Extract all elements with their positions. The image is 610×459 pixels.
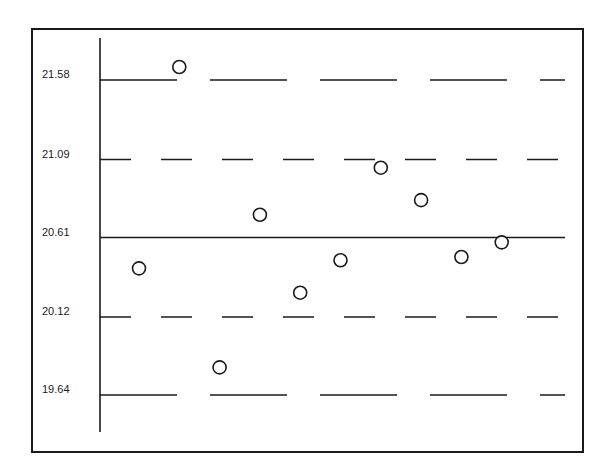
reference-lines [100,80,565,395]
data-points [133,61,509,374]
data-point [133,262,146,275]
y-tick-label: 19.64 [42,383,70,395]
data-point [213,361,226,374]
y-tick-labels: 21.5821.0920.6120.1219.64 [42,68,70,395]
data-point [374,161,387,174]
y-tick-label: 21.58 [42,68,70,80]
data-point [495,236,508,249]
y-tick-label: 20.12 [42,305,70,317]
data-point [334,254,347,267]
data-point [294,286,307,299]
data-point [173,61,186,74]
data-point [415,194,428,207]
data-point [253,208,266,221]
control-chart: 21.5821.0920.6120.1219.64 [0,0,610,459]
y-tick-label: 20.61 [42,226,70,238]
data-point [455,250,468,263]
y-tick-label: 21.09 [42,148,70,160]
